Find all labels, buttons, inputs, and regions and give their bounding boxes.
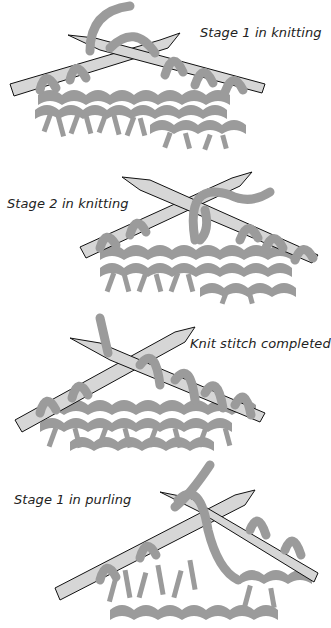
caption-stage-1-knitting: Stage 1 in knitting bbox=[200, 25, 322, 40]
panel-knit-stitch-completed: Knit stitch completed bbox=[0, 310, 328, 460]
panel-stage-2-knitting: Stage 2 in knitting bbox=[0, 150, 328, 310]
caption-knit-stitch-completed: Knit stitch completed bbox=[190, 336, 331, 351]
knitting-stage-1-illustration bbox=[0, 0, 328, 160]
purling-stage-1-illustration bbox=[0, 460, 328, 628]
panel-stage-1-knitting: Stage 1 in knitting bbox=[0, 0, 328, 160]
caption-stage-1-purling: Stage 1 in purling bbox=[14, 492, 131, 507]
purled-fabric bbox=[107, 560, 312, 620]
knitting-stage-2-illustration bbox=[0, 150, 328, 310]
panel-stage-1-purling: Stage 1 in purling bbox=[0, 460, 328, 628]
knit-stitch-completed-illustration bbox=[0, 310, 328, 460]
knitted-fabric bbox=[35, 90, 246, 151]
caption-stage-2-knitting: Stage 2 in knitting bbox=[7, 196, 129, 211]
